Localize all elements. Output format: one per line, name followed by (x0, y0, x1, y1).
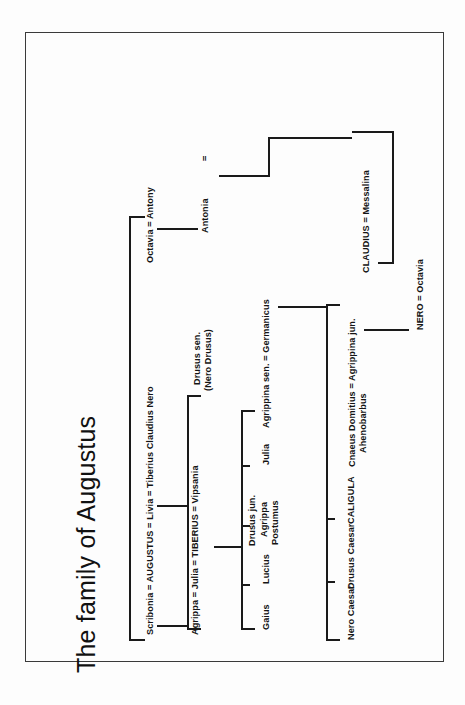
connector-gen1-spine (129, 216, 131, 641)
connector-octavia-to-antonia (157, 228, 198, 230)
connector-claudius-to-octavia (352, 131, 394, 133)
node-caligula: CALIGULA (347, 476, 357, 524)
node-gaius: Gaius (262, 604, 272, 630)
node-agrippina-sen-germanicus: Agrippina sen. = Germanicus (262, 299, 272, 428)
node-agrippa-postumus-line1: Agrippa (259, 502, 269, 537)
connector-gen3-agrippina-arm (241, 410, 255, 412)
node-scribonia-augustus-livia: Scribonia = AUGUSTUS = Livia = Tiberius … (146, 386, 156, 635)
node-antonia: Antonia (201, 198, 211, 233)
connector-gen4-nerocaesar-arm (326, 639, 340, 641)
page-title: The family of Augustus (72, 416, 101, 673)
diagram-frame: The family of Augustus Scribonia = AUGUS… (25, 32, 444, 662)
connector-gen2-tiberius-arm (187, 628, 201, 630)
node-drusus-jun: Drusus jun. (248, 495, 258, 546)
connector-cnaeus-to-nero (364, 329, 409, 331)
connector-gen1-top-arm (129, 216, 145, 218)
node-drusus-caesar: Drusus Caesar (347, 524, 357, 590)
node-lucius: Lucius (262, 554, 272, 584)
node-cnaeus-agrippina: Cnaeus Domitius = Agrippina jun. (347, 318, 357, 467)
connector-gen3-tick-postumus (241, 525, 250, 527)
diagram-page: The family of Augustus Scribonia = AUGUS… (0, 0, 465, 705)
node-equals-antonia-drusus: = (201, 156, 211, 161)
connector-gen2-spine (187, 395, 189, 630)
connector-gen1-bottom-arm (129, 639, 145, 641)
connector-antonia-germanicus-riser (268, 137, 270, 177)
connector-tiberius-to-drususjun (214, 546, 241, 548)
node-octavia-antony: Octavia = Antony (146, 187, 156, 263)
connector-germanicus-to-children (278, 306, 327, 308)
node-nero-drusus: (Nero Drusus) (203, 329, 213, 391)
node-agrippa-julia-tiberius: Agrippa = Julia = TIBERIUS = Vipsania (191, 465, 201, 635)
node-nero-caesar: Nero Caesar (347, 585, 357, 640)
connector-gen4-agrippina-arm (326, 304, 340, 306)
connector-gen2-drusus-arm (187, 395, 201, 397)
connector-antonia-to-germanicus (219, 175, 269, 177)
connector-gen3-tick-lucius (241, 584, 250, 586)
node-julia: Julia (262, 444, 272, 465)
connector-octavia-arm (378, 262, 394, 264)
connector-gen3-tick-julia (241, 465, 250, 467)
node-claudius-messalina: CLAUDIUS = Messalina (362, 170, 372, 273)
connector-gen3-gaius-arm (241, 628, 255, 630)
connector-augustus-to-gen2 (157, 505, 188, 507)
connector-gen4-tick-caligula (326, 518, 335, 520)
connector-claudius-octavia-spine (392, 131, 394, 264)
node-drusus-sen: Drusus sen. (192, 332, 202, 385)
node-nero-octavia: NERO = Octavia (416, 259, 426, 330)
connector-antonia-claudius-arm (268, 137, 352, 139)
node-agrippa-postumus-line2: Postumus (270, 500, 280, 545)
connector-gen4-spine (326, 304, 328, 641)
connector-gen3-spine (241, 410, 243, 630)
connector-gen4-tick-drususcaesar (326, 581, 335, 583)
connector-scribonia-to-gen2 (157, 625, 188, 627)
node-ahenobarbus: Ahenobarbus (358, 393, 368, 453)
